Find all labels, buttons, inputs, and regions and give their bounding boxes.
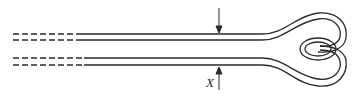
hairpin-diagram bbox=[0, 0, 357, 100]
dimension-label-x: X bbox=[206, 75, 214, 91]
arrow-up-icon bbox=[216, 67, 222, 74]
dashed-extension-lines bbox=[13, 34, 84, 65]
dimension-arrows bbox=[216, 8, 222, 90]
arrow-down-icon bbox=[216, 26, 222, 33]
inner-loop-inner bbox=[305, 42, 331, 56]
top-inner-strip bbox=[82, 19, 340, 46]
